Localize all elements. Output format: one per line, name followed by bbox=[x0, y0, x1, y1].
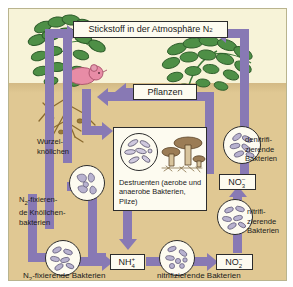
nodule-bacteria-line1-post: -fixieren- bbox=[28, 195, 58, 204]
nitrogen-cycle-diagram: Destruenten (aerobe und anaerobe Bakteri… bbox=[0, 0, 293, 287]
arrow-soil-to-plant-top bbox=[63, 33, 67, 42]
atmosphere-label: Stickstoff in der Atmosphäre N bbox=[88, 25, 209, 34]
atmosphere-box: Stickstoff in der Atmosphäre N2 bbox=[73, 21, 228, 38]
nitrifying-bacteria-right-caption: nitrifi- zierende Bakterien bbox=[247, 207, 279, 236]
bacteria-colony-icon-destruents bbox=[120, 133, 158, 171]
nodule-bacteria-line3: bakterien bbox=[19, 218, 50, 227]
nodule-bacteria-caption: N2-fixieren-de Knöllchen-bakterien bbox=[19, 195, 65, 227]
nitrifying-bacteria-bottom-caption: nitrifizierende Bakterien bbox=[157, 271, 241, 281]
n2-fixing-bacteria-caption: N2-fixierende Bakterien bbox=[23, 271, 106, 281]
nitrate-box: NO – 3 bbox=[219, 174, 256, 190]
nitrite-box: NO – 2 bbox=[216, 254, 253, 270]
arrow-denitrification-top bbox=[225, 29, 245, 38]
arrow-nodule-to-ammonium-h bbox=[88, 253, 106, 262]
arrow-plants-to-destruents-right bbox=[82, 126, 104, 135]
arrow-head-right-to-plants bbox=[97, 88, 108, 106]
nitrite-label: NO bbox=[225, 258, 239, 267]
diagram-scene: Destruenten (aerobe und anaerobe Bakteri… bbox=[8, 8, 287, 281]
destruents-label: Destruenten (aerobe und anaerobe Bakteri… bbox=[119, 178, 203, 207]
arrow-nodule-to-ammonium-riser bbox=[88, 214, 97, 254]
destruents-panel: Destruenten (aerobe und anaerobe Bakteri… bbox=[113, 127, 207, 211]
nodule-bacteria-line2: de Knöllchen- bbox=[19, 208, 65, 217]
mushroom-icon bbox=[158, 131, 206, 175]
arrow-head-destruents-to-ammonium bbox=[119, 239, 137, 250]
plants-box: Pflanzen bbox=[133, 84, 197, 100]
arrow-head-plants-to-destruents bbox=[102, 122, 113, 140]
denitrifying-bacteria-caption: denitrifi- zierende Bakterien bbox=[245, 135, 277, 164]
ammonium-label: NH bbox=[119, 258, 132, 267]
nitrate-label: NO bbox=[228, 178, 242, 187]
n2-fixing-post: -fixierende Bakterien bbox=[32, 271, 105, 280]
bacteria-colony-icon-nodule bbox=[69, 165, 105, 201]
arrow-destruents-to-ammonium bbox=[123, 209, 132, 241]
ammonium-box: NH + 4 bbox=[110, 254, 145, 270]
root-nodules-caption: Wurzel- knöllchen bbox=[37, 137, 69, 156]
